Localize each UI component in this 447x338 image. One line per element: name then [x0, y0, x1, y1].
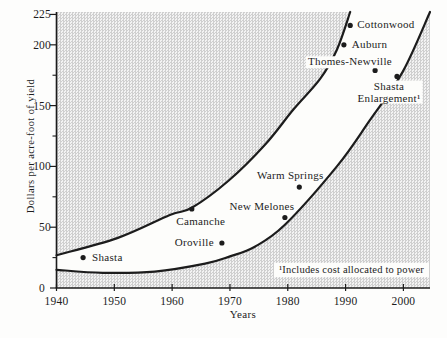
x-tick-label-1950: 1950: [102, 295, 126, 307]
chart-labels-layer: Dollars per acre-foot of yield Years ¹In…: [0, 0, 447, 338]
x-tick-label-1970: 1970: [218, 295, 242, 307]
y-tick-label-150: 150: [33, 100, 51, 112]
y-tick-label-50: 50: [39, 221, 51, 233]
y-tick-label-225: 225: [33, 8, 51, 20]
x-tick-label-2000: 2000: [391, 295, 415, 307]
data-point-label-auburn: Auburn: [352, 39, 387, 51]
cost-per-acre-foot-chart: Dollars per acre-foot of yield Years ¹In…: [0, 0, 447, 338]
x-tick-label-1980: 1980: [276, 295, 300, 307]
x-axis-title: Years: [230, 308, 257, 320]
data-point-label-oroville: Oroville: [175, 237, 214, 249]
x-tick-label-1960: 1960: [160, 295, 184, 307]
data-point-label-cottonwood: Cottonwood: [357, 20, 414, 32]
data-point-label-camanche: Camanche: [176, 216, 225, 228]
footnote: ¹Includes cost allocated to power: [274, 263, 429, 277]
y-tick-label-0: 0: [39, 282, 45, 294]
y-tick-label-200: 200: [33, 39, 51, 51]
x-tick-label-1940: 1940: [45, 295, 69, 307]
data-point-label-thomes-newville: Thomes-Newville: [306, 57, 394, 69]
data-point-label-new-melones: New Melones: [230, 202, 295, 214]
data-point-label-warm-springs: Warm Springs: [257, 170, 324, 182]
data-point-label-shasta: Shasta: [92, 252, 123, 264]
data-point-label-shasta-enlargement: ShastaEnlargement¹: [356, 81, 423, 104]
x-tick-label-1990: 1990: [334, 295, 358, 307]
y-tick-label-100: 100: [33, 160, 51, 172]
